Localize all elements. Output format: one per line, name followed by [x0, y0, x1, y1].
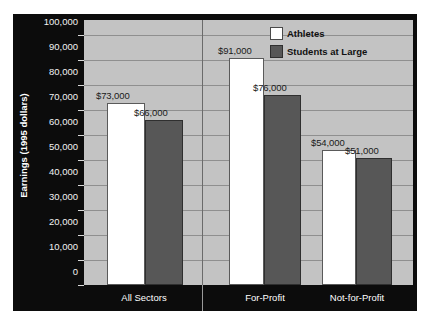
- bar-students-at-large: [145, 120, 183, 285]
- bar-value-label: $76,000: [253, 82, 287, 93]
- y-axis-tick-label: 90,000: [49, 41, 78, 52]
- y-axis-tick-label: 70,000: [49, 91, 78, 102]
- bar-students-at-large: [264, 95, 301, 285]
- legend-item-students-at-large: Students at Large: [270, 44, 367, 59]
- bar-athletes: [107, 103, 145, 286]
- bar-athletes: [322, 150, 356, 285]
- y-axis-tick-label: 20,000: [49, 216, 78, 227]
- group-separator: [202, 20, 203, 285]
- y-axis-tick-label: 10,000: [49, 241, 78, 252]
- y-axis-tick-label: 0: [73, 266, 78, 277]
- bar-students-at-large: [356, 158, 392, 286]
- chart-legend: Athletes Students at Large: [270, 26, 367, 62]
- bar-value-label: $66,000: [134, 107, 168, 118]
- y-axis-tick-label: 40,000: [49, 166, 78, 177]
- bar-value-label: $54,000: [311, 137, 345, 148]
- x-axis-label-for-profit: For-Profit: [215, 292, 315, 303]
- legend-item-athletes: Athletes: [270, 26, 367, 41]
- x-axis-label-all-sectors: All Sectors: [94, 292, 194, 303]
- y-axis-tick-label: 60,000: [49, 116, 78, 127]
- legend-label-athletes: Athletes: [287, 28, 324, 39]
- bar-value-label: $51,000: [345, 145, 379, 156]
- y-axis-tick-label: 100,000: [44, 16, 78, 27]
- x-axis-group-separator: [202, 285, 203, 311]
- y-axis-tick-label: 50,000: [49, 141, 78, 152]
- y-axis-tick-label: 30,000: [49, 191, 78, 202]
- x-axis-label-not-for-profit: Not-for-Profit: [307, 292, 407, 303]
- y-axis-tick-labels: 100,00090,00080,00070,00060,00050,00040,…: [22, 0, 78, 297]
- bar-value-label: $73,000: [96, 90, 130, 101]
- bar-value-label: $91,000: [218, 45, 252, 56]
- y-axis-tick-mark: [78, 285, 84, 286]
- legend-swatch-students-icon: [270, 45, 283, 58]
- legend-label-students-at-large: Students at Large: [287, 46, 367, 57]
- bar-chart-figure: Earnings (1995 dollars) 100,00090,00080,…: [0, 0, 431, 325]
- y-axis-tick-label: 80,000: [49, 66, 78, 77]
- legend-swatch-athletes-icon: [270, 27, 283, 40]
